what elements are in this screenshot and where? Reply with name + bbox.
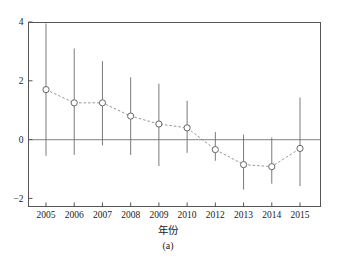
y-tick-label: 0 (19, 135, 24, 145)
x-tick-label: 2015 (291, 210, 310, 220)
panel-caption: (a) (162, 240, 173, 252)
data-point-marker (99, 100, 105, 106)
x-tick-label: 2013 (234, 210, 253, 220)
y-tick-label: 4 (19, 17, 24, 27)
x-tick-label: 2009 (149, 210, 168, 220)
data-point-marker (128, 113, 134, 119)
x-tick-label: 2010 (178, 210, 197, 220)
data-point-marker (240, 161, 246, 167)
error-bar-chart: 420−2 2005200620072008200920102012201320… (0, 0, 337, 258)
chart-figure: 420−2 2005200620072008200920102012201320… (0, 0, 337, 258)
x-tick-label: 2007 (93, 210, 112, 220)
data-point-marker (184, 125, 190, 131)
x-tick-label: 2008 (121, 210, 140, 220)
x-tick-label: 2005 (37, 210, 56, 220)
y-tick-label: −2 (13, 194, 23, 204)
y-tick-label: 2 (19, 76, 24, 86)
x-tick-label: 2006 (65, 210, 84, 220)
data-point-marker (156, 121, 162, 127)
x-axis-label: 年份 (158, 224, 179, 236)
data-point-marker (297, 145, 303, 151)
data-point-marker (269, 164, 275, 170)
x-tick-label: 2014 (262, 210, 281, 220)
data-point-marker (212, 146, 218, 152)
data-point-marker (71, 100, 77, 106)
x-tick-label: 2012 (206, 210, 225, 220)
data-point-marker (43, 87, 49, 93)
